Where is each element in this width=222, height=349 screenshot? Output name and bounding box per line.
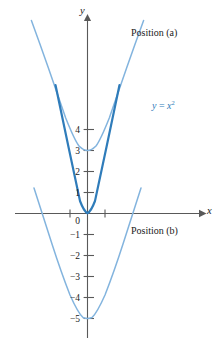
parabola-translation-figure: 4 3 2 1 0 −1 −2 −3 −4 −5 y x Position (a… <box>0 0 222 349</box>
y-axis-ticks <box>84 130 94 319</box>
equation-label: y = x2 <box>152 101 175 111</box>
equation-rhs-exponent: 2 <box>172 99 175 106</box>
x-axis-name-label: x <box>207 206 212 217</box>
y-tick-label-4: 4 <box>60 125 80 135</box>
y-tick-label-neg-5: −5 <box>55 314 80 324</box>
y-axis <box>84 14 91 338</box>
y-tick-label-neg-3: −3 <box>55 272 80 282</box>
position-a-label: Position (a) <box>131 28 177 38</box>
plot-canvas <box>0 0 222 349</box>
y-axis-name-label: y <box>80 6 85 17</box>
y-tick-label-neg-2: −2 <box>55 251 80 261</box>
y-tick-label-neg-4: −4 <box>55 293 80 303</box>
y-tick-label-neg-1: −1 <box>55 230 80 240</box>
y-tick-label-3: 3 <box>60 146 80 156</box>
position-b-label: Position (b) <box>131 226 178 236</box>
y-tick-label-2: 2 <box>60 167 80 177</box>
y-tick-label-1: 1 <box>60 188 80 198</box>
origin-label: 0 <box>60 216 80 226</box>
